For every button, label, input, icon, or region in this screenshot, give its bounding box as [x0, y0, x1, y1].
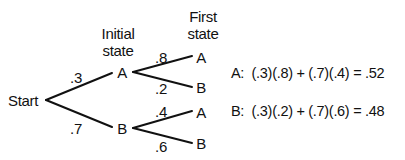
initial-node-A: A	[117, 65, 127, 80]
prob-B-A: .4	[155, 104, 167, 119]
first-node-A-from-B: A	[196, 105, 206, 120]
prob-A-A: .8	[155, 50, 167, 65]
equation-B-expression: (.3)(.2) + (.7)(.6) = .48	[252, 103, 385, 119]
start-node: Start	[8, 93, 38, 108]
prob-start-B: .7	[70, 121, 82, 136]
prob-start-A: .3	[70, 70, 82, 85]
equation-B-label: B:	[231, 103, 244, 119]
first-node-B-from-B: B	[196, 136, 206, 151]
initial-node-B: B	[117, 121, 127, 136]
equation-A-expression: (.3)(.8) + (.7)(.4) = .52	[252, 65, 385, 81]
equation-A: A: (.3)(.8) + (.7)(.4) = .52	[231, 66, 384, 81]
equation-A-label: A:	[231, 65, 244, 81]
prob-B-B: .6	[155, 139, 167, 154]
first-node-A-from-A: A	[196, 50, 206, 65]
first-state-header-line1: First	[189, 9, 217, 24]
first-node-B-from-A: B	[196, 80, 206, 95]
initial-state-header-line2: state	[102, 43, 133, 58]
prob-A-B: .2	[155, 81, 167, 96]
equation-B: B: (.3)(.2) + (.7)(.6) = .48	[231, 104, 384, 119]
first-state-header-line2: state	[187, 26, 218, 41]
initial-state-header-line1: Initial	[102, 26, 135, 41]
